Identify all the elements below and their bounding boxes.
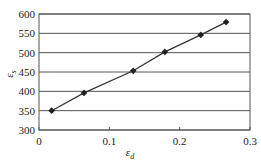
diamond-marker	[81, 90, 88, 97]
gridlines	[39, 14, 250, 130]
y-tick-label: 400	[19, 85, 36, 97]
diamond-marker	[223, 19, 230, 26]
y-axis-ticks: 300350400450500550600	[19, 8, 36, 136]
x-tick-label: 0.2	[173, 135, 187, 147]
diamond-marker	[48, 107, 55, 114]
y-tick-label: 500	[19, 47, 36, 59]
y-tick-label: 600	[19, 8, 36, 20]
line-chart: 300350400450500550600 00.10.20.3 εd εs	[0, 0, 261, 163]
diamond-marker	[130, 68, 137, 75]
y-axis-label: εs	[3, 70, 18, 77]
x-tick-label: 0	[36, 135, 42, 147]
diamond-marker	[162, 49, 169, 56]
x-tick-label: 0.1	[102, 135, 116, 147]
x-axis-label: εd	[126, 146, 135, 161]
y-tick-label: 550	[19, 27, 36, 39]
y-tick-label: 350	[19, 105, 36, 117]
diamond-marker	[197, 32, 204, 39]
y-tick-label: 300	[19, 124, 36, 136]
y-tick-label: 450	[19, 66, 36, 78]
x-tick-label: 0.3	[243, 135, 257, 147]
